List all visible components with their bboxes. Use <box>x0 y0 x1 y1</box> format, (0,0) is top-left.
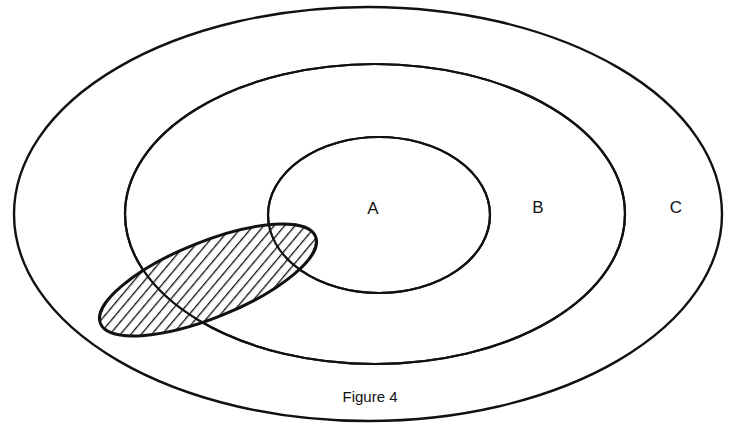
euler-diagram-svg <box>0 0 735 439</box>
label-a: A <box>367 199 379 219</box>
figure-canvas: A B C Figure 4 <box>0 0 735 439</box>
figure-caption: Figure 4 <box>342 388 397 405</box>
label-c: C <box>670 198 682 218</box>
label-b: B <box>532 198 544 218</box>
